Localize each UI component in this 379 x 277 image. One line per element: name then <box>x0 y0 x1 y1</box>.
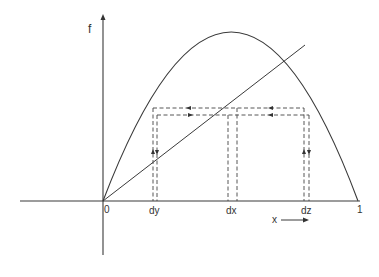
arrow-right-icon <box>188 113 193 117</box>
map-curve <box>103 32 358 201</box>
arrow-up-icon <box>151 149 155 154</box>
x-direction-label: x <box>272 214 277 225</box>
y-axis-arrow-icon <box>101 14 106 20</box>
tick-label-dy: dy <box>149 205 160 216</box>
arrow-up-icon <box>302 149 306 154</box>
tick-label-dx: dx <box>226 205 237 216</box>
origin-label: 0 <box>104 204 110 215</box>
arrow-left-icon <box>186 106 191 110</box>
identity-diagonal <box>103 45 305 201</box>
cobweb-diagram: f 0 dy dx dz 1 x <box>0 0 379 277</box>
arrow-right-icon <box>303 218 309 223</box>
arrow-down-icon <box>155 150 159 155</box>
tick-label-dz: dz <box>301 205 312 216</box>
arrow-left-icon <box>268 106 273 110</box>
y-axis-label: f <box>88 22 92 36</box>
cobweb-paths <box>151 106 311 201</box>
arrow-down-icon <box>307 150 311 155</box>
x-end-label: 1 <box>357 204 363 215</box>
arrow-left-icon <box>268 113 273 117</box>
